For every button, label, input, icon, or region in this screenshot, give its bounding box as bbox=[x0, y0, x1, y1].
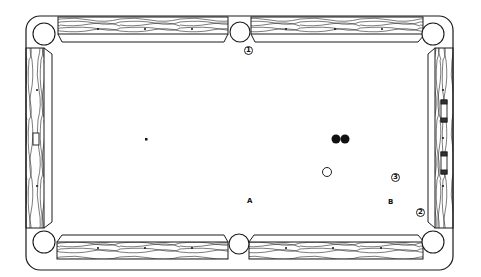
top-right-corner-pocket bbox=[422, 23, 444, 45]
object-ball-2 bbox=[341, 135, 350, 144]
top-rail-left bbox=[58, 17, 228, 34]
object-ball-1 bbox=[332, 135, 341, 144]
bottom-right-corner-pocket bbox=[422, 231, 444, 253]
bottom-side-pocket bbox=[229, 234, 249, 254]
position-label-3: 3 bbox=[391, 173, 400, 182]
left-rail-plate bbox=[33, 133, 39, 145]
top-side-pocket bbox=[230, 22, 250, 42]
top-rail-right bbox=[251, 17, 423, 34]
table-frame bbox=[26, 16, 453, 270]
pocket-label-2: 2 bbox=[416, 208, 425, 217]
point-a-label: A bbox=[247, 198, 252, 205]
pool-table-diagram: 1 3 2 A B bbox=[0, 0, 481, 277]
bottom-rail-left bbox=[57, 242, 228, 259]
bottom-left-corner-pocket bbox=[33, 231, 55, 253]
top-left-corner-pocket bbox=[33, 23, 55, 45]
head-spot bbox=[145, 138, 148, 141]
point-b-label: B bbox=[388, 199, 393, 206]
bottom-rail-right bbox=[249, 242, 423, 259]
pocket-label-1: 1 bbox=[244, 46, 253, 55]
pool-table-svg bbox=[0, 0, 481, 277]
cue-ball bbox=[323, 168, 332, 177]
